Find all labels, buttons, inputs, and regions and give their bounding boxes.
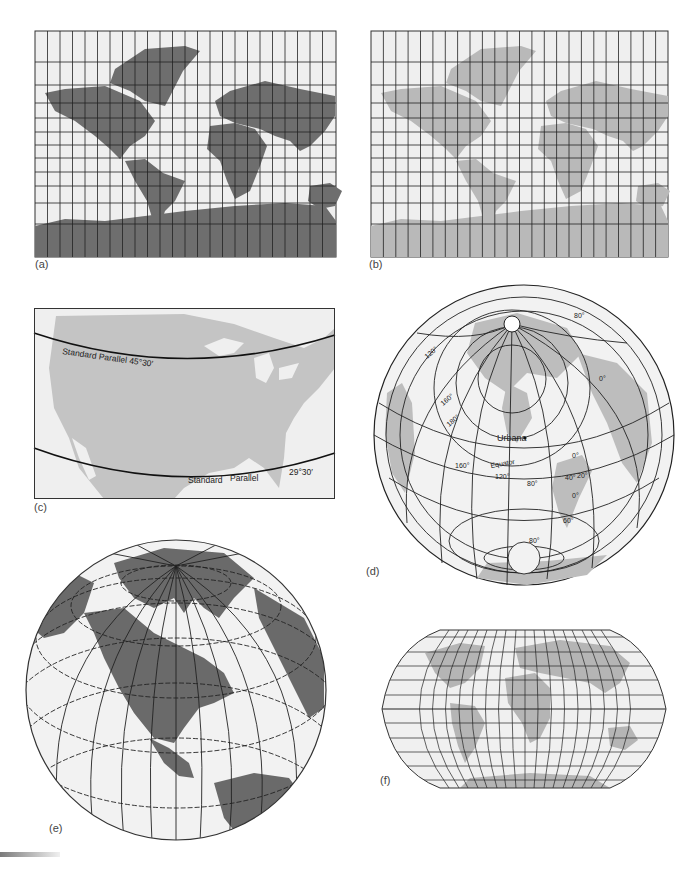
map-panel-c: Standard Parallel 45°30′ Standard Parall… [34, 308, 336, 500]
panel-label-d: (d) [366, 565, 379, 577]
map-panel-b [371, 31, 669, 257]
robinson-world-map [380, 628, 670, 790]
panel-label-c: (c) [34, 501, 47, 513]
conic-us-map: Standard Parallel 45°30′ Standard Parall… [34, 308, 336, 500]
lower-parallel-value: 29°30′ [289, 467, 313, 477]
lat-label-20: 20° [577, 472, 588, 479]
lower-parallel-word1: Standard [188, 475, 223, 485]
page-edge-bar [0, 852, 60, 857]
meridian-label-120-lower: 120° [495, 473, 510, 480]
map-panel-d: 80° 120° 160° 180° 160° 120° 80° 0° 0° 0… [367, 283, 682, 593]
meridian-label-0-b: 0° [572, 452, 579, 459]
panel-label-e: (e) [49, 822, 62, 834]
urbana-label: Urbana [497, 433, 527, 443]
lat-label-80: 80° [574, 312, 585, 319]
lat-label-60: 60° [563, 517, 574, 524]
lat-label-80-south: 80° [529, 537, 540, 544]
oblique-azimuthal-map: 80° 120° 160° 180° 160° 120° 80° 0° 0° 0… [367, 283, 682, 593]
meridian-label-160-lower: 160° [455, 462, 470, 469]
meridian-label-0-a: 0° [599, 375, 606, 382]
map-panel-a [35, 31, 337, 257]
orthographic-globe [24, 538, 329, 843]
urbana-marker [524, 437, 527, 440]
mercator-map-dark [35, 31, 337, 257]
lat-label-40: 40° [565, 474, 576, 481]
panel-label-a: (a) [35, 258, 48, 270]
panel-label-b: (b) [369, 258, 382, 270]
lower-parallel-word2: Parallel [230, 473, 258, 483]
map-panel-f [380, 628, 670, 790]
meridian-label-80-lower: 80° [527, 480, 538, 487]
meridian-label-0-c: 0° [572, 492, 579, 499]
mercator-map-light [371, 31, 669, 257]
panel-label-f: (f) [380, 774, 390, 786]
map-panel-e [24, 538, 329, 843]
